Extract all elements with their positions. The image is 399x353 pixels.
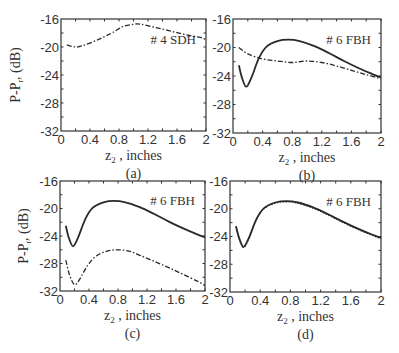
y-tick-label: -28 (209, 257, 228, 272)
annotation-label: # 6 FBH (150, 193, 195, 208)
x-tick-label: 2 (202, 132, 209, 147)
y-tick-label: -16 (39, 174, 58, 189)
figure: 00.40.81.21.62-16-20-24-28-32z2 , inches… (0, 0, 399, 353)
x-tick-label: 0.4 (80, 292, 98, 307)
x-tick-label: 1.2 (312, 293, 330, 308)
series-line-dotted (236, 202, 381, 248)
x-tick-label: 1.2 (139, 132, 157, 147)
panel-c: 00.40.81.21.62-16-20-24-28-32z2 , inches… (16, 174, 209, 343)
y-tick-label: -28 (39, 256, 58, 271)
y-tick-label: -32 (40, 124, 59, 139)
x-axis-label: z2 , inches (277, 309, 334, 326)
y-tick-label: -20 (212, 40, 231, 55)
y-tick-label: -24 (40, 68, 59, 83)
annotation-label: # 6 FBH (326, 194, 371, 209)
x-tick-label: 1.2 (313, 134, 331, 149)
y-tick-label: -24 (209, 229, 228, 244)
x-tick-label: 1.6 (168, 132, 186, 147)
y-axis-label: P-Pr, (dB) (8, 47, 25, 103)
y-tick-label: -32 (39, 284, 58, 299)
y-tick-label: -16 (209, 174, 228, 189)
panel-a: 00.40.81.21.62-16-20-24-28-32z2 , inches… (8, 12, 210, 183)
panel-b: 00.40.81.21.62-16-20-24-28-32z2 , inches… (212, 12, 384, 185)
x-tick-label: 0.8 (281, 293, 299, 308)
series-line-dash-dot (239, 48, 381, 79)
panel-caption: (a) (126, 166, 142, 182)
x-tick-label: 0.4 (81, 132, 99, 147)
x-tick-label: 0.4 (254, 134, 272, 149)
x-tick-label: 1.2 (138, 292, 156, 307)
four-panel-line-chart: 00.40.81.21.62-16-20-24-28-32z2 , inches… (0, 0, 399, 353)
panel-d: 00.40.81.21.62-16-20-24-28-32z2 , inches… (209, 174, 384, 344)
y-tick-label: -16 (212, 12, 231, 27)
y-axis-label: P-Pr, (dB) (16, 208, 33, 264)
panel-caption: (b) (299, 168, 316, 184)
annotation-label: # 6 FBH (326, 32, 371, 47)
x-tick-label: 0.8 (110, 132, 128, 147)
x-tick-label: 2 (201, 292, 208, 307)
y-tick-label: -20 (40, 40, 59, 55)
annotation-label: # 4 SDH (150, 32, 196, 47)
x-tick-label: 1.6 (167, 292, 185, 307)
x-tick-label: 0.8 (109, 292, 127, 307)
x-tick-label: 2 (377, 293, 384, 308)
y-tick-label: -24 (39, 229, 58, 244)
panel-caption: (d) (297, 327, 314, 343)
x-axis-label: z2 , inches (105, 148, 162, 165)
y-tick-label: -20 (39, 201, 58, 216)
y-tick-label: -32 (212, 126, 231, 141)
x-tick-label: 0.8 (283, 134, 301, 149)
y-tick-label: -20 (209, 201, 228, 216)
x-tick-label: 1.6 (342, 293, 360, 308)
y-tick-label: -32 (209, 285, 228, 300)
x-axis-label: z2 , inches (104, 308, 161, 325)
panel-caption: (c) (125, 326, 141, 342)
x-tick-label: 1.6 (342, 134, 360, 149)
y-tick-label: -28 (40, 96, 59, 111)
y-tick-label: -28 (212, 97, 231, 112)
y-tick-label: -16 (40, 12, 59, 27)
x-tick-label: 0.4 (251, 293, 269, 308)
x-axis-label: z2 , inches (279, 150, 336, 167)
series-line-dash-dot (66, 250, 205, 286)
y-tick-label: -24 (212, 69, 231, 84)
x-tick-label: 2 (377, 134, 384, 149)
